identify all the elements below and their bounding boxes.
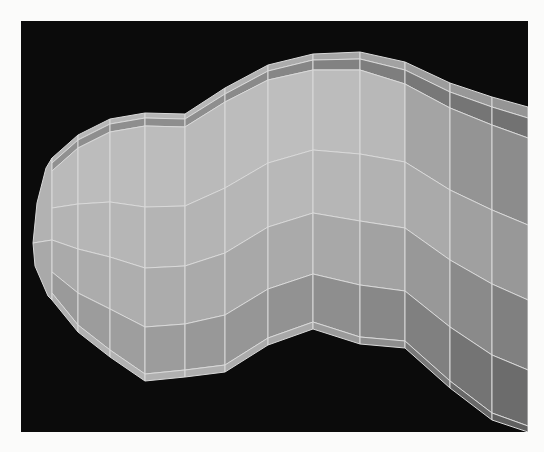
- mesh-face: [360, 154, 405, 228]
- mesh-face: [360, 221, 405, 291]
- mesh-face: [268, 70, 313, 163]
- mesh-face: [110, 202, 145, 268]
- mesh-render-figure: [0, 0, 544, 452]
- mesh-face: [313, 213, 360, 285]
- mesh-face: [145, 206, 185, 268]
- mesh-face: [145, 324, 185, 374]
- mesh-face: [360, 70, 405, 162]
- mesh-face: [145, 266, 185, 327]
- mesh-face: [185, 253, 225, 324]
- mesh-face: [110, 126, 145, 207]
- mesh-face: [313, 70, 360, 154]
- mesh-face: [360, 285, 405, 341]
- mesh-face: [185, 315, 225, 370]
- mesh-face: [492, 125, 528, 225]
- mesh-face: [78, 202, 110, 257]
- mesh-face: [145, 126, 185, 207]
- mesh-face: [313, 150, 360, 221]
- mesh-render-svg: [0, 0, 544, 452]
- mesh-face: [313, 59, 360, 70]
